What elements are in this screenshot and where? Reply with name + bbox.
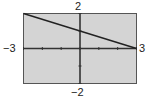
y-max-label: 2 xyxy=(75,1,81,12)
x-min-label: −3 xyxy=(3,43,16,54)
x-max-label: 3 xyxy=(139,43,145,54)
y-min-label: −2 xyxy=(71,87,84,98)
